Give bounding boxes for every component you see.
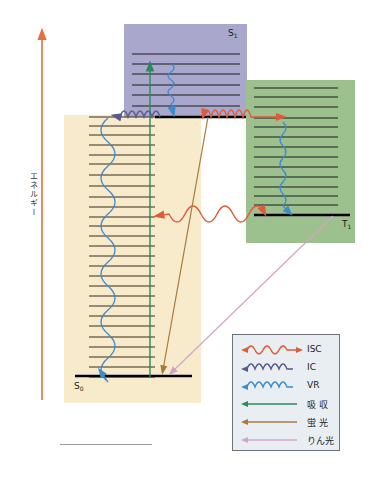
legend-item-isc: ISC bbox=[233, 341, 339, 359]
s0-region bbox=[64, 115, 201, 403]
fluorescence-arrow-icon bbox=[241, 415, 303, 429]
s0-label-sub: 0 bbox=[80, 385, 84, 392]
phosphorescence-arrow-icon bbox=[241, 433, 303, 447]
legend-label: りん光 bbox=[307, 434, 334, 447]
legend-item-vr: VR bbox=[233, 377, 339, 395]
footnote-divider bbox=[60, 444, 152, 445]
legend-label: 蛍 光 bbox=[307, 416, 328, 429]
legend-item-absorption: 吸 収 bbox=[233, 395, 339, 413]
s1-label-sub: 1 bbox=[234, 32, 238, 39]
legend: ISC IC VR 吸 収 蛍 光 りん光 bbox=[232, 334, 340, 451]
t1-label: T1 bbox=[342, 219, 351, 230]
t1-region bbox=[246, 80, 355, 243]
isc-wave-icon bbox=[241, 343, 303, 357]
legend-item-fluorescence: 蛍 光 bbox=[233, 413, 339, 431]
legend-item-ic: IC bbox=[233, 359, 339, 377]
absorption-arrow-icon bbox=[241, 397, 303, 411]
s1-label: S1 bbox=[228, 28, 238, 39]
vr-wave-icon bbox=[241, 379, 303, 393]
legend-label: 吸 収 bbox=[307, 398, 328, 411]
legend-label: VR bbox=[307, 380, 319, 390]
legend-item-phosphorescence: りん光 bbox=[233, 431, 339, 449]
energy-axis-label: エネルギー bbox=[28, 172, 38, 217]
ic-wave-icon bbox=[241, 361, 303, 375]
legend-label: IC bbox=[307, 362, 316, 372]
t1-label-sub: 1 bbox=[348, 223, 352, 230]
s0-label: S0 bbox=[74, 381, 84, 392]
legend-label: ISC bbox=[307, 344, 322, 354]
